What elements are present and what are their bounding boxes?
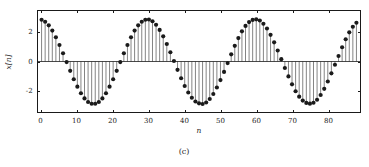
data-point-marker <box>47 23 51 27</box>
data-point-marker <box>351 25 355 29</box>
data-point-marker <box>344 37 348 41</box>
data-point-marker <box>265 27 269 31</box>
data-point-marker <box>226 61 230 65</box>
data-point-marker <box>90 102 94 106</box>
x-axis-tick <box>329 110 330 113</box>
y-axis-tick <box>37 32 40 33</box>
data-point-marker <box>143 18 147 22</box>
data-point-marker <box>268 33 272 37</box>
y-axis-tick-right <box>358 62 361 63</box>
data-point-marker <box>150 19 154 23</box>
x-tick-label: 10 <box>72 117 81 125</box>
data-point-marker <box>254 17 258 21</box>
data-point-marker <box>218 78 222 82</box>
data-point-marker <box>183 84 187 88</box>
data-point-marker <box>39 18 43 22</box>
data-point-marker <box>319 93 323 97</box>
data-point-marker <box>72 77 76 81</box>
data-point-marker <box>333 63 337 67</box>
figure-caption: (c) <box>179 147 190 156</box>
x-tick-label: 20 <box>108 117 117 125</box>
data-point-marker <box>251 18 255 22</box>
data-point-marker <box>200 102 204 106</box>
data-point-marker <box>240 29 244 33</box>
x-tick-label: 30 <box>144 117 153 125</box>
x-axis-tick <box>113 110 114 113</box>
x-axis-tick-top <box>257 10 258 13</box>
figure-panel: 01020304050607080 -202 n x[n] (c) <box>0 0 369 167</box>
data-point-marker <box>222 70 226 74</box>
data-point-marker <box>326 79 330 83</box>
x-axis-tick-top <box>41 10 42 13</box>
x-tick-label: 60 <box>252 117 261 125</box>
data-point-marker <box>100 96 104 100</box>
data-point-marker <box>82 96 86 100</box>
y-axis-tick <box>37 62 40 63</box>
data-point-marker <box>97 100 101 104</box>
data-point-marker <box>243 24 247 28</box>
x-axis-tick <box>41 110 42 113</box>
data-point-marker <box>54 35 58 39</box>
x-axis-tick-top <box>329 10 330 13</box>
data-point-marker <box>107 85 111 89</box>
data-point-marker <box>197 101 201 105</box>
y-axis-tick <box>37 91 40 92</box>
data-point-marker <box>204 100 208 104</box>
x-axis-tick <box>257 110 258 113</box>
data-point-marker <box>308 102 312 106</box>
data-point-marker <box>247 20 251 24</box>
data-point-marker <box>168 50 172 54</box>
x-tick-label: 80 <box>324 117 333 125</box>
data-point-marker <box>79 91 83 95</box>
plot-area <box>37 10 361 113</box>
data-point-marker <box>165 42 169 46</box>
y-axis-label: x[n] <box>4 55 13 70</box>
x-axis-tick-top <box>293 10 294 13</box>
data-point-marker <box>329 71 333 75</box>
data-point-marker <box>311 101 315 105</box>
x-tick-label: 0 <box>38 117 43 125</box>
x-axis-tick <box>221 110 222 113</box>
data-point-marker <box>125 43 129 47</box>
data-point-marker <box>50 29 54 33</box>
data-point-marker <box>233 44 237 48</box>
data-point-marker <box>129 35 133 39</box>
data-point-marker <box>229 52 233 56</box>
x-axis-tick-top <box>149 10 150 13</box>
data-point-marker <box>276 48 280 52</box>
data-point-marker <box>208 97 212 101</box>
data-point-marker <box>286 74 290 78</box>
y-tick-label: 2 <box>17 28 33 36</box>
data-point-marker <box>179 76 183 80</box>
data-point-marker <box>347 30 351 34</box>
x-axis-tick <box>293 110 294 113</box>
data-point-marker <box>283 66 287 70</box>
data-point-marker <box>354 21 358 25</box>
data-point-marker <box>161 34 165 38</box>
data-point-marker <box>304 101 308 105</box>
data-point-marker <box>140 20 144 24</box>
data-point-marker <box>133 29 137 33</box>
data-point-marker <box>336 54 340 58</box>
data-point-marker <box>172 59 176 63</box>
x-axis-label: n <box>197 126 202 135</box>
data-point-marker <box>340 45 344 49</box>
data-point-marker <box>136 23 140 27</box>
data-point-marker <box>301 99 305 103</box>
x-axis-tick-top <box>221 10 222 13</box>
data-point-marker <box>211 92 215 96</box>
data-point-marker <box>297 95 301 99</box>
data-point-marker <box>57 43 61 47</box>
stem-plot-svg <box>38 11 360 112</box>
data-point-marker <box>261 22 265 26</box>
data-point-marker <box>75 85 79 89</box>
data-point-marker <box>122 51 126 55</box>
data-point-marker <box>61 51 65 55</box>
data-point-marker <box>258 18 262 22</box>
y-axis-tick-right <box>358 91 361 92</box>
x-tick-label: 40 <box>180 117 189 125</box>
x-axis-tick <box>77 110 78 113</box>
data-point-marker <box>43 20 47 24</box>
data-point-marker <box>272 40 276 44</box>
data-point-marker <box>111 77 115 81</box>
